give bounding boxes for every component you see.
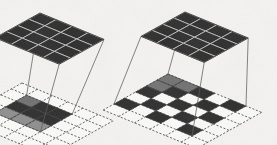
convolution-diagram-figure	[0, 0, 277, 145]
projection-line	[246, 38, 248, 106]
diagram-canvas	[0, 0, 277, 145]
dilated-convolution-input-grid	[103, 74, 261, 145]
dilated-convolution-output-grid	[141, 12, 248, 62]
standard-convolution-input-grid	[0, 83, 113, 145]
standard-convolution-output-grid	[0, 13, 104, 64]
